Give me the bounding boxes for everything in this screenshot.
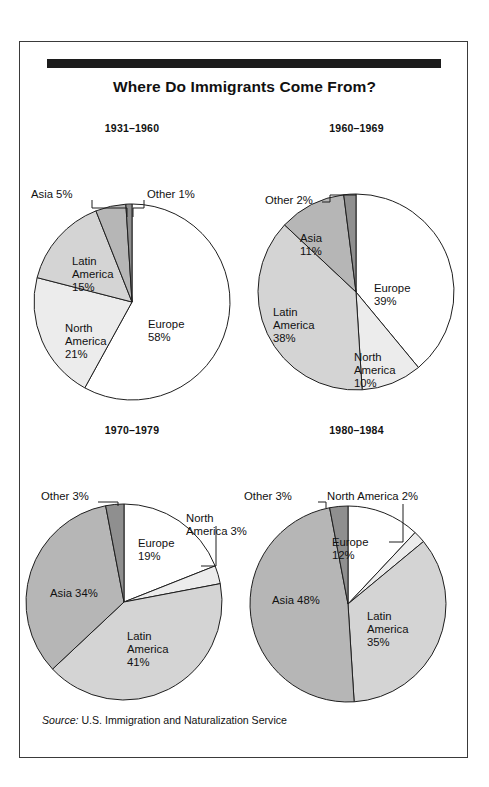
pie-1-label-asia: Asia 5%: [31, 188, 72, 201]
source-note: Source: U.S. Immigration and Naturalizat…: [42, 714, 287, 726]
pie-2-label-north-america: North America 10%: [354, 351, 395, 391]
title-rule: [47, 59, 441, 68]
pie-4-label-other: Other 3%: [244, 490, 292, 503]
source-word: Source:: [42, 714, 79, 726]
pie-1-label-europe: Europe 58%: [148, 318, 184, 344]
pie-1-label-north-america: North America 21%: [65, 322, 106, 362]
pie-chart-1970-1979: 1970–1979 Europe 19% North America 3% La…: [20, 424, 244, 724]
pie-chart-1980-1984: 1980–1984 Europe 12% North America 2% La…: [244, 424, 469, 724]
pie-1-label-latin-america: Latin America 15%: [72, 255, 113, 295]
pie-4-label-latin-america: Latin America 35%: [367, 610, 408, 650]
pie-3-graphic: [20, 424, 244, 724]
figure-frame: Where Do Immigrants Come From? 1931–1960…: [19, 41, 468, 758]
pie-4-label-north-america: North America 2%: [327, 490, 418, 503]
pie-2-label-latin-america: Latin America 38%: [273, 306, 314, 346]
pie-3-label-north-america: North America 3%: [186, 512, 247, 538]
page-title: Where Do Immigrants Come From?: [20, 78, 469, 96]
leader-other-4: [318, 502, 326, 508]
pie-2-label-asia: Asia 11%: [300, 232, 322, 258]
pie-2-label-europe: Europe 39%: [374, 282, 410, 308]
pie-3-label-latin-america: Latin America 41%: [127, 630, 168, 670]
pie-chart-1960-1969: 1960–1969 Europe 39% North America 10% L…: [244, 122, 469, 422]
pie-1-graphic: [20, 122, 244, 422]
pie-chart-1931-1960: 1931–1960 Europe 58% North America 21% L…: [20, 122, 244, 422]
pie-1-label-other: Other 1%: [147, 188, 195, 201]
pie-4-label-asia: Asia 48%: [272, 594, 320, 607]
pie-2-label-other: Other 2%: [265, 194, 313, 207]
source-text: U.S. Immigration and Naturalization Serv…: [79, 714, 287, 726]
pie-4-graphic: [244, 424, 469, 724]
pie-3-label-other: Other 3%: [41, 490, 89, 503]
pie-3-label-asia: Asia 34%: [50, 587, 98, 600]
pie-3-label-europe: Europe 19%: [138, 537, 174, 563]
pie-4-label-europe: Europe 12%: [332, 536, 368, 562]
